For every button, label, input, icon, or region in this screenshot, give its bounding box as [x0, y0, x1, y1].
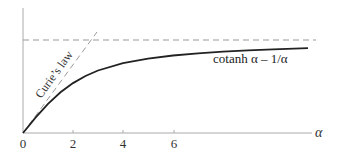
- curve-label: cotanh α – 1/α: [213, 51, 288, 66]
- tick-label-0: 0: [20, 136, 27, 151]
- curie-law-label: Curie’s law: [32, 48, 76, 101]
- x-axis-label: α: [315, 125, 323, 140]
- tick-label-6: 6: [171, 136, 178, 151]
- tick-label-2: 2: [70, 136, 77, 151]
- langevin-chart: 0 2 4 6 α Curie’s law cotanh α – 1/α: [0, 0, 338, 156]
- tick-label-4: 4: [120, 136, 127, 151]
- curie-law-line: [23, 32, 97, 133]
